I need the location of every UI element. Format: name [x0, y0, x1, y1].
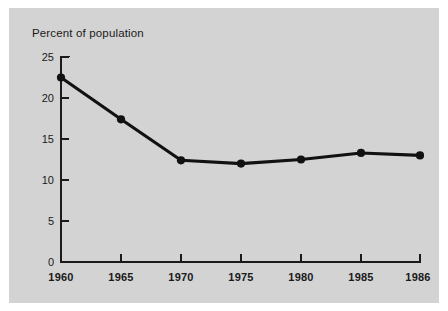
data-point-1965 — [117, 115, 125, 123]
y-tick-label-5: 5 — [48, 215, 54, 227]
y-tick-label-20: 20 — [42, 92, 54, 104]
x-ticks-group: 1960 1965 1970 1975 1980 1985 1986 — [48, 254, 430, 283]
data-point-1975 — [237, 160, 245, 168]
y-tick-label-15: 15 — [42, 133, 54, 145]
line-chart-plot: 25 20 15 10 5 0 1960 1965 1970 1975 1980 — [9, 8, 439, 303]
y-tick-label-0: 0 — [48, 256, 54, 268]
figure-root: Percent of population 25 20 — [0, 0, 448, 311]
x-tick-label-1965: 1965 — [108, 271, 133, 283]
data-point-1986 — [416, 151, 424, 159]
x-tick-label-1985: 1985 — [348, 271, 373, 283]
data-point-1980 — [297, 155, 305, 163]
data-point-1960 — [57, 73, 65, 81]
data-point-1985 — [357, 149, 365, 157]
data-point-1970 — [177, 156, 185, 164]
y-ticks-group: 25 20 15 10 5 0 — [42, 51, 69, 268]
x-tick-label-1975: 1975 — [228, 271, 253, 283]
series-line-path — [61, 78, 420, 164]
y-tick-label-10: 10 — [42, 174, 54, 186]
x-tick-label-1960: 1960 — [48, 271, 73, 283]
chart-panel: Percent of population 25 20 — [9, 8, 439, 303]
x-tick-label-1970: 1970 — [168, 271, 193, 283]
y-tick-label-25: 25 — [42, 51, 54, 63]
x-tick-label-1986: 1986 — [405, 271, 430, 283]
axes-group — [61, 56, 421, 263]
x-tick-label-1980: 1980 — [288, 271, 313, 283]
series-percent-of-population — [57, 73, 424, 167]
